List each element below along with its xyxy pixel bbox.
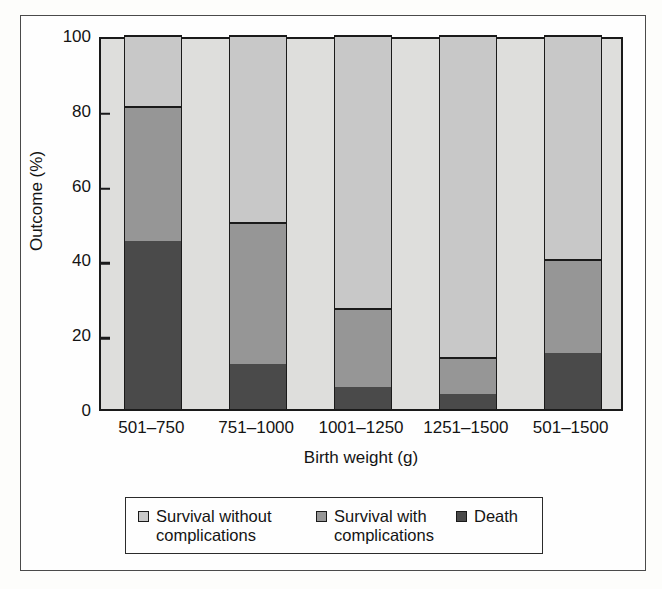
y-tick-label: 60 [45,177,91,197]
legend-label: Death [474,507,518,526]
bar-segment-death[interactable] [334,387,392,409]
x-tick-label: 1251–1500 [412,418,520,438]
plot-area [99,37,623,411]
x-tick-label: 751–1000 [202,418,310,438]
stacked-bar[interactable] [334,35,392,409]
stacked-bar[interactable] [229,35,287,409]
y-tick-mark [101,337,110,340]
stacked-bar[interactable] [439,35,497,409]
y-tick-label: 100 [45,27,91,47]
y-tick-label: 20 [45,326,91,346]
x-tick-label: 1001–1250 [307,418,415,438]
stacked-bar[interactable] [124,35,182,409]
bar-segment-death[interactable] [229,364,287,409]
bar-segment-death[interactable] [544,353,602,409]
x-axis-title: Birth weight (g) [99,448,623,468]
y-tick-mark [101,113,110,116]
bar-segment-death[interactable] [124,241,182,409]
legend-label: Survival without complications [156,507,316,545]
figure-panel: Outcome (%) 020406080100 501–750751–1000… [20,15,646,571]
bar-segment-survival-with-complications[interactable] [439,357,497,394]
legend-swatch-icon [316,511,327,522]
y-tick-mark [101,187,110,190]
bar-segment-survival-without-complications[interactable] [229,35,287,222]
x-tick-label: 501–750 [97,418,205,438]
bar-segment-survival-with-complications[interactable] [544,259,602,353]
y-tick-mark [101,262,110,265]
legend-item[interactable]: Survival without complications [138,507,316,545]
y-tick-label: 0 [45,401,91,421]
stacked-bar[interactable] [544,35,602,409]
legend-swatch-icon [456,511,467,522]
bar-segment-survival-without-complications[interactable] [439,35,497,357]
bar-segment-survival-with-complications[interactable] [229,222,287,364]
x-tick-label: 501–1500 [517,418,625,438]
bar-segment-survival-without-complications[interactable] [544,35,602,259]
y-axis-title: Outcome (%) [27,121,47,281]
bar-segment-survival-with-complications[interactable] [334,308,392,387]
plot-wrapper: Outcome (%) 020406080100 501–750751–1000… [21,16,647,436]
y-tick-label: 40 [45,251,91,271]
legend-swatch-icon [138,511,149,522]
bar-segment-death[interactable] [439,394,497,409]
bar-segment-survival-without-complications[interactable] [334,35,392,308]
y-tick-label: 80 [45,102,91,122]
chart-legend: Survival without complicationsSurvival w… [125,497,543,554]
bar-segment-survival-with-complications[interactable] [124,106,182,241]
bar-segment-survival-without-complications[interactable] [124,35,182,106]
legend-item[interactable]: Death [456,507,518,526]
